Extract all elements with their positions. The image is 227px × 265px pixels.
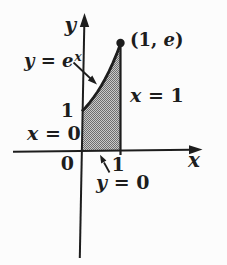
boundary-x0-value: = 0: [38, 122, 80, 144]
curve-equation-equals: =: [34, 50, 62, 71]
y-axis-arrowhead-icon: [80, 13, 89, 27]
boundary-x0-var: x: [27, 122, 38, 144]
point-label-close: ): [175, 29, 184, 50]
boundary-label-y-equals-0: y = 0: [96, 173, 149, 192]
exp-region-figure: y x y = ex (1, e) x = 1 1 x = 0 0 1 y = …: [0, 0, 227, 265]
point-label-open: (1,: [130, 29, 164, 50]
boundary-x1-var: x: [130, 84, 141, 106]
boundary-label-x-equals-1: x = 1: [130, 86, 184, 105]
curve-equation-label: y = ex: [24, 51, 82, 70]
boundary-label-x-equals-0: x = 0: [27, 124, 81, 143]
y0-pointer-arrowhead-icon: [100, 155, 106, 164]
y-axis-label: y: [54, 15, 76, 35]
curve-equation-exponent: x: [75, 50, 82, 64]
boundary-y0-var: y: [96, 171, 107, 193]
x-axis-label: x: [178, 150, 200, 170]
point-coordinates-label: (1, e): [130, 31, 184, 49]
curve-equation-var: y: [24, 50, 34, 71]
origin-label: 0: [54, 154, 74, 173]
boundary-y0-value: = 0: [107, 171, 149, 193]
curve-equation-base: e: [62, 50, 73, 71]
point-label-e: e: [164, 29, 175, 50]
y-tick-label-1: 1: [54, 101, 74, 120]
boundary-x1-value: = 1: [141, 84, 183, 106]
x-axis-line: [13, 150, 191, 152]
point-1-e-dot: [116, 39, 124, 47]
